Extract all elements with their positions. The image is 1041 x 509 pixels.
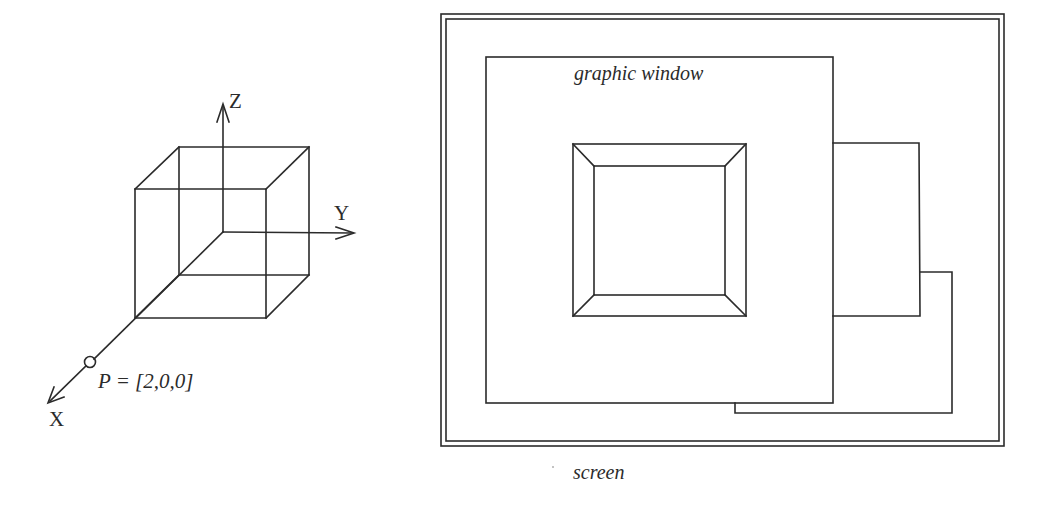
frustum-edge (573, 144, 594, 166)
cube-edge (135, 147, 179, 189)
frustum-outer-square (573, 144, 746, 316)
z-axis-label: Z (229, 89, 242, 113)
screen-inner-border (446, 19, 999, 441)
frustum-edge (725, 295, 746, 316)
cube-edge (266, 275, 309, 318)
graphic-window-label: graphic window (574, 62, 704, 85)
y-axis: Y (223, 201, 354, 239)
point-p: P = [2,0,0] (85, 357, 194, 394)
z-axis: Z (217, 89, 242, 232)
frustum-edge (725, 144, 746, 166)
figure-canvas: Z Y X P = [2,0,0] (0, 0, 1041, 509)
frustum-edge (573, 295, 594, 316)
graphic-window (486, 57, 833, 403)
point-circle-icon (85, 357, 96, 368)
frustum-inner-square (594, 166, 725, 295)
screen-label: screen (573, 461, 624, 483)
window-2-back (833, 143, 920, 316)
cube-axes-diagram: Z Y X P = [2,0,0] (48, 89, 354, 431)
y-axis-label: Y (334, 201, 349, 225)
x-axis-label: X (49, 407, 64, 431)
screen-windows-diagram: graphic window screen (441, 14, 1004, 483)
frustum-shape (573, 144, 746, 316)
print-speck (552, 466, 554, 468)
point-p-label: P = [2,0,0] (97, 369, 193, 393)
cube-edge (266, 147, 309, 189)
